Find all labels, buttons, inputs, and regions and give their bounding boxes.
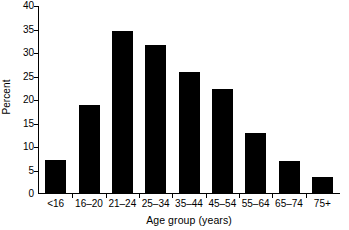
x-tick-label: 16–20	[72, 198, 105, 210]
y-tick-mark	[34, 30, 38, 31]
y-tick-mark	[34, 124, 38, 125]
bar	[212, 89, 233, 193]
y-tick-label: 5	[14, 166, 34, 176]
plot-area	[38, 6, 340, 194]
bar	[312, 177, 333, 193]
y-tick-label: 25	[14, 72, 34, 82]
x-tick-label: 65–74	[272, 198, 305, 210]
bar	[112, 31, 133, 193]
y-tick-label: 35	[14, 25, 34, 35]
y-tick-mark	[34, 6, 38, 7]
bar	[279, 161, 300, 193]
x-tick-label: 45–54	[206, 198, 239, 210]
x-tick-label: 35–44	[172, 198, 205, 210]
bar-chart: Percent 0510152025303540 <1616–2021–2425…	[0, 0, 349, 230]
x-tick-label: 55–64	[239, 198, 272, 210]
x-axis-title: Age group (years)	[38, 213, 340, 227]
x-tick-label: 21–24	[106, 198, 139, 210]
bar	[179, 72, 200, 193]
y-tick-label: 40	[14, 1, 34, 11]
bar	[45, 160, 66, 193]
y-axis-title: Percent	[0, 0, 14, 194]
y-tick-mark	[34, 171, 38, 172]
x-tick-label: 75+	[306, 198, 339, 210]
bar	[245, 133, 266, 193]
y-tick-label: 20	[14, 95, 34, 105]
bar	[79, 105, 100, 193]
y-tick-mark	[34, 53, 38, 54]
y-axis-tick-labels: 0510152025303540	[14, 0, 34, 230]
y-tick-label: 0	[14, 189, 34, 199]
x-tick-label: 25–34	[139, 198, 172, 210]
x-tick-label: <16	[39, 198, 72, 210]
y-tick-label: 10	[14, 142, 34, 152]
x-axis-line	[38, 193, 340, 194]
y-tick-mark	[34, 77, 38, 78]
y-tick-label: 30	[14, 48, 34, 58]
bar	[145, 45, 166, 193]
y-tick-label: 15	[14, 119, 34, 129]
bar-series	[39, 6, 340, 193]
y-tick-mark	[34, 147, 38, 148]
x-axis-tick-labels: <1616–2021–2425–3435–4445–5455–6465–7475…	[38, 198, 340, 212]
y-tick-mark	[34, 100, 38, 101]
